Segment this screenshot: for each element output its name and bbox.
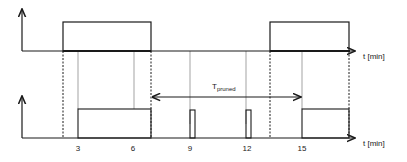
bottom-pulses (78, 109, 349, 138)
bottom-pulse-12 (246, 110, 251, 138)
tick-label-15: 15 (298, 144, 307, 153)
bottom-pulse-1 (78, 109, 151, 138)
bottom-axis-label: t [min] (363, 139, 385, 148)
top-pulse-2 (270, 22, 349, 51)
t-pruned-label: Tpruned (212, 82, 236, 92)
top-axis (22, 10, 354, 51)
top-pulse-1 (63, 22, 151, 51)
timing-diagram: t [min] t [min] 3 6 9 12 15 Tpruned (0, 0, 407, 162)
bottom-pulse-2 (302, 109, 349, 138)
tick-label-9: 9 (188, 144, 193, 153)
tick-label-6: 6 (131, 144, 136, 153)
t-pruned-sub: pruned (217, 86, 236, 92)
dashed-lines (63, 51, 349, 138)
tick-label-12: 12 (243, 144, 252, 153)
bottom-axis (22, 97, 354, 138)
bottom-pulse-9 (190, 110, 195, 138)
tick-label-3: 3 (76, 144, 81, 153)
top-axis-label: t [min] (363, 52, 385, 61)
top-pulses (63, 22, 349, 51)
